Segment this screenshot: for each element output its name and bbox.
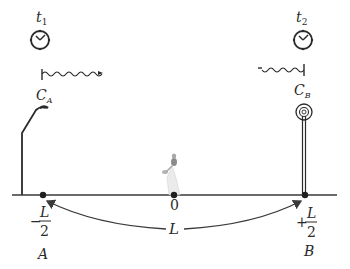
clock-right-label: t2	[296, 9, 307, 27]
svg-text:L: L	[306, 205, 316, 221]
origin-label: 0	[170, 197, 179, 213]
point-b-coordinate: + L 2	[296, 205, 317, 240]
light-wave-right	[258, 64, 304, 76]
point-a-coordinate: − L 2	[30, 204, 51, 239]
distance-arrow-left	[47, 201, 166, 229]
point-b-name: B	[303, 243, 314, 259]
observer-figure-icon	[162, 154, 180, 196]
point-a-marker	[40, 192, 46, 198]
point-b-marker	[302, 192, 308, 198]
svg-text:L: L	[39, 204, 49, 220]
light-wave-left	[42, 69, 103, 80]
distance-label: L	[168, 220, 179, 238]
lamp-post-left-icon	[22, 107, 48, 196]
lamp-post-right-icon	[296, 104, 312, 194]
svg-text:2: 2	[40, 223, 49, 239]
simultaneity-diagram: t1 CA t2 CB	[0, 0, 350, 269]
source-right-label: CB	[294, 82, 311, 100]
source-left-label: CA	[36, 87, 53, 105]
point-a-name: A	[36, 246, 48, 262]
clock-left-label: t1	[36, 9, 47, 27]
clock-left-icon: t1	[30, 9, 50, 50]
distance-arrow-right	[184, 201, 301, 229]
clock-right-icon: t2	[293, 9, 313, 50]
svg-text:2: 2	[307, 224, 316, 240]
